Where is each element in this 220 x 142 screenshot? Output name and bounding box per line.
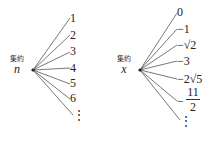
- branch-label: −3: [177, 55, 190, 67]
- fraction-denominator: 2: [186, 101, 200, 113]
- branch-label: 4: [70, 62, 76, 74]
- fraction-numerator: 11: [186, 86, 200, 98]
- branch-line: [33, 52, 70, 70]
- branch-label: −2√5: [177, 73, 202, 85]
- branch-line: [140, 70, 180, 120]
- branch-label: 0: [177, 6, 183, 18]
- node-variable: n: [5, 63, 29, 75]
- branch-line: [140, 29, 177, 70]
- fraction-sign: −: [177, 95, 184, 107]
- branch-label: 6: [70, 92, 76, 104]
- branch-label: 1: [70, 12, 76, 24]
- branch-line: [140, 61, 177, 70]
- branch-label: 3: [70, 45, 76, 57]
- branch-line: [140, 13, 177, 70]
- branch-line: [33, 70, 70, 84]
- branch-label: 2: [70, 29, 76, 41]
- branch-line: [33, 35, 70, 70]
- node-variable: x: [112, 63, 136, 75]
- branch-line: [33, 68, 70, 70]
- branch-line: [140, 45, 177, 70]
- branch-line: [33, 18, 70, 70]
- node-dot: [138, 68, 141, 71]
- continuation-dots: ⋮: [180, 118, 186, 124]
- branch-line: [33, 70, 73, 115]
- node-dot: [31, 68, 34, 71]
- branch-label: −√2: [177, 39, 196, 51]
- fraction: 11 2: [186, 86, 200, 113]
- branch-label: −1: [177, 23, 190, 35]
- continuation-dots: ⋮: [73, 112, 79, 118]
- branch-label: 5: [70, 77, 76, 89]
- branch-line: [33, 70, 70, 99]
